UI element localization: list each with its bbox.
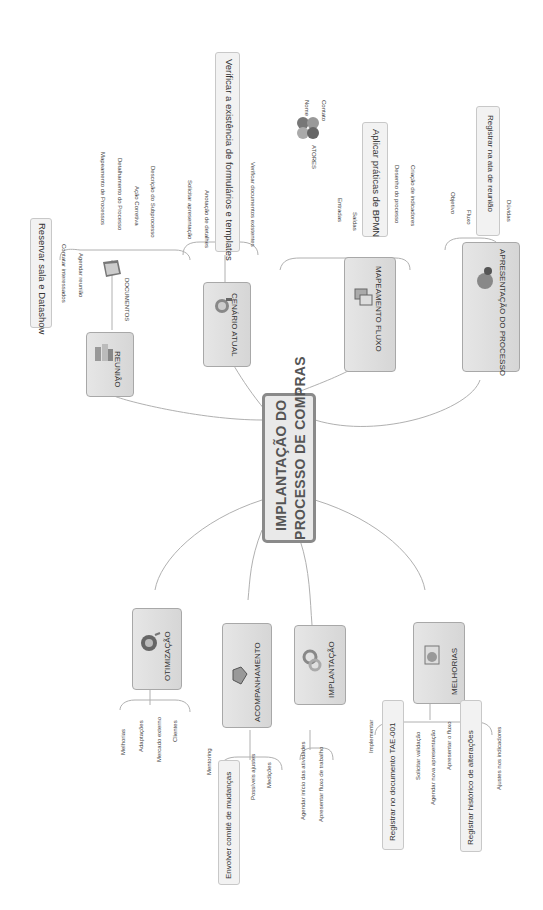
melhorias-child-5[interactable]: Ajustes nos indicadores bbox=[496, 727, 502, 790]
globe-icon bbox=[139, 631, 161, 653]
gears-icon bbox=[301, 648, 323, 672]
branch-melhorias[interactable]: MELHORIAS bbox=[413, 622, 465, 704]
cenario-child-3[interactable]: Verificar documentos existentes bbox=[250, 162, 256, 247]
branch-mapeamento-fluxo-label: MAPEAMENTO FLUXO bbox=[374, 266, 383, 352]
central-topic-line2: PROCESSO DE COMPRAS bbox=[292, 356, 308, 540]
branch-otimizacao-label: OTIMIZAÇÃO bbox=[163, 631, 172, 681]
melhorias-child-4[interactable]: Apresentar o fluxo bbox=[446, 721, 452, 770]
subnode-documentos[interactable]: DOCUMENTOS bbox=[100, 250, 140, 325]
mapeamento-child-1[interactable]: Entradas bbox=[337, 198, 343, 222]
mapeamento-child-3[interactable]: Desenho do processo bbox=[394, 165, 400, 223]
documentos-child-1[interactable]: Mapeamento de Processos bbox=[100, 152, 106, 225]
acompanhamento-child-3[interactable]: Medições bbox=[266, 762, 272, 788]
acompanhamento-callout[interactable]: Envolver comitê de mudanças bbox=[218, 760, 240, 885]
branch-melhorias-label: MELHORIAS bbox=[450, 648, 459, 695]
mapeamento-callout[interactable]: Aplicar práticas de BPMN bbox=[362, 122, 388, 237]
branch-cenario-atual-label: CENÁRIO ATUAL bbox=[230, 293, 239, 356]
atores-child-1[interactable]: Nome bbox=[304, 100, 310, 116]
otimizacao-child-3[interactable]: Mercado externo bbox=[156, 717, 162, 762]
branch-implantacao-label: IMPLANTAÇÃO bbox=[327, 641, 336, 698]
otimizacao-child-4[interactable]: Clientes bbox=[172, 720, 178, 742]
documentos-child-2[interactable]: Detalhamento do Processo bbox=[117, 158, 123, 230]
atores-child-2[interactable]: Contato bbox=[321, 100, 327, 121]
callout-text: Registrar na ata de reunião bbox=[486, 115, 495, 212]
branch-reuniao[interactable]: REUNIÃO bbox=[86, 332, 134, 397]
branch-acompanhamento-label: ACOMPANHAMENTO bbox=[253, 642, 262, 722]
branch-apresentacao[interactable]: APRESENTAÇÃO DO PROCESSO bbox=[462, 242, 520, 372]
atores-label: ATORES bbox=[311, 145, 317, 169]
acompanhamento-child-2[interactable]: Possíveis ajustes bbox=[250, 754, 256, 800]
reuniao-callout[interactable]: Reservar sala e Datashow bbox=[30, 218, 52, 328]
building-icon bbox=[93, 341, 115, 363]
documentos-label: DOCUMENTOS bbox=[124, 278, 130, 321]
document-icon bbox=[422, 643, 444, 667]
reuniao-child-2[interactable]: Agendar reunião bbox=[78, 253, 84, 297]
apresentacao-callout[interactable]: Registrar na ata de reunião bbox=[476, 106, 500, 236]
documents-icon bbox=[100, 258, 124, 280]
callout-text: Registrar no documento TAE-001 bbox=[388, 723, 397, 841]
reuniao-child-1[interactable]: Contatar interessados bbox=[61, 244, 67, 303]
branch-cenario-atual[interactable]: CENÁRIO ATUAL bbox=[203, 282, 251, 367]
implantacao-child-2[interactable]: Apresentar fluxo de trabalho bbox=[318, 747, 324, 822]
mapeamento-child-2[interactable]: Saídas bbox=[352, 212, 358, 231]
acompanhamento-child-1[interactable]: Mentoring bbox=[206, 748, 212, 775]
callout-text: Verificar a existência de formulários e … bbox=[224, 59, 235, 261]
otimizacao-child-2[interactable]: Adaptações bbox=[138, 720, 144, 752]
callout-text: Envolver comitê de mudanças bbox=[224, 772, 233, 879]
branch-mapeamento-fluxo[interactable]: MAPEAMENTO FLUXO bbox=[344, 257, 396, 372]
apresentacao-child-2[interactable]: Fluxo bbox=[466, 210, 472, 225]
apresentacao-child-1[interactable]: Objetivo bbox=[450, 192, 456, 214]
branch-otimizacao[interactable]: OTIMIZAÇÃO bbox=[132, 608, 182, 690]
branch-reuniao-label: REUNIÃO bbox=[113, 351, 122, 387]
melhorias-child-2[interactable]: Solicitar validação bbox=[415, 732, 421, 780]
people-icon bbox=[295, 115, 321, 141]
mapeamento-child-4[interactable]: Criação de indicadores bbox=[410, 165, 416, 226]
cenario-child-2[interactable]: Anotação de detalhes bbox=[204, 190, 210, 248]
melhorias-callout-1[interactable]: Registrar no documento TAE-001 bbox=[382, 700, 404, 850]
central-topic-line1: IMPLANTAÇÃO DO bbox=[273, 400, 289, 532]
callout-text: Registrar histórico de alterações bbox=[466, 730, 475, 845]
branch-acompanhamento[interactable]: ACOMPANHAMENTO bbox=[222, 623, 272, 728]
melhorias-child-3[interactable]: Agendar nova apresentação bbox=[430, 730, 436, 805]
presenter-icon bbox=[473, 265, 497, 291]
branch-apresentacao-label: APRESENTAÇÃO DO PROCESSO bbox=[498, 249, 507, 376]
subnode-atores[interactable]: ATORES bbox=[295, 115, 325, 195]
documentos-child-4[interactable]: Descrição do Subprocesso bbox=[150, 166, 156, 238]
melhorias-child-1[interactable]: Implementar bbox=[368, 720, 374, 753]
central-topic[interactable]: IMPLANTAÇÃO DO PROCESSO DE COMPRAS bbox=[262, 393, 316, 543]
flowchart-icon bbox=[353, 286, 375, 308]
melhorias-callout-2[interactable]: Registrar histórico de alterações bbox=[460, 700, 482, 852]
handshake-icon bbox=[229, 664, 251, 688]
apresentacao-child-3[interactable]: Dúvidas bbox=[506, 200, 512, 222]
branch-implantacao[interactable]: IMPLANTAÇÃO bbox=[294, 625, 346, 705]
callout-text: Aplicar práticas de BPMN bbox=[371, 129, 382, 237]
cenario-child-1[interactable]: Solicitar apresentação bbox=[187, 180, 193, 239]
documentos-child-3[interactable]: Ação Corretiva bbox=[134, 186, 140, 226]
otimizacao-child-1[interactable]: Melhorias bbox=[120, 729, 126, 755]
callout-text: Reservar sala e Datashow bbox=[37, 223, 48, 334]
cenario-callout[interactable]: Verificar a existência de formulários e … bbox=[215, 52, 240, 252]
implantacao-child-1[interactable]: Agendar início das atividades bbox=[300, 742, 306, 820]
